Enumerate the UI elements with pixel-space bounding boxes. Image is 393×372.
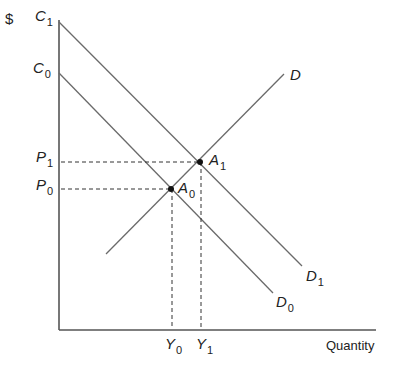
label-d: D	[290, 67, 301, 82]
y-axis-label: $	[5, 11, 13, 26]
curve-d1	[59, 22, 302, 266]
label-d0: D0	[276, 294, 294, 309]
label-y0: Y0	[165, 336, 182, 351]
label-a0: A0	[178, 180, 195, 195]
label-a1: A1	[209, 152, 226, 167]
curve-d	[106, 74, 284, 254]
label-y1: Y1	[196, 336, 213, 351]
x-axis-label: Quantity	[326, 339, 374, 352]
label-c1: C1	[35, 8, 53, 23]
label-p0: P0	[36, 177, 53, 192]
point-a0-dot	[168, 186, 174, 192]
label-p1: P1	[36, 149, 53, 164]
diagram-svg	[0, 0, 393, 372]
label-c0: C0	[33, 60, 51, 75]
point-a1-dot	[197, 159, 203, 165]
label-d1: D1	[306, 268, 324, 283]
curve-d0	[59, 73, 273, 293]
diagram-canvas: $ C1 C0 P1 P0 A1 A0 D D1 D0 Y0 Y1 Quanti…	[0, 0, 393, 372]
